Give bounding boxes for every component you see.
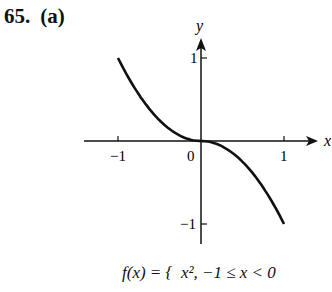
formula-lhs: f(x) = { (122, 263, 172, 282)
formula-case-1: x², −1 ≤ x < 0 (181, 263, 276, 282)
x-tick-label-neg1: −1 (110, 148, 126, 164)
y-axis-label: y (194, 17, 204, 35)
y-tick-label-1: 1 (190, 50, 198, 66)
x-tick-label-1: 1 (280, 148, 288, 164)
y-tick-label-neg1: −1 (180, 216, 196, 232)
function-definition: f(x) = { x², −1 ≤ x < 0 (122, 263, 276, 283)
x-tick-label-0: 0 (187, 148, 195, 164)
x-axis-label: x (323, 132, 331, 149)
function-graph: x y −1 0 1 1 −1 (0, 0, 332, 292)
